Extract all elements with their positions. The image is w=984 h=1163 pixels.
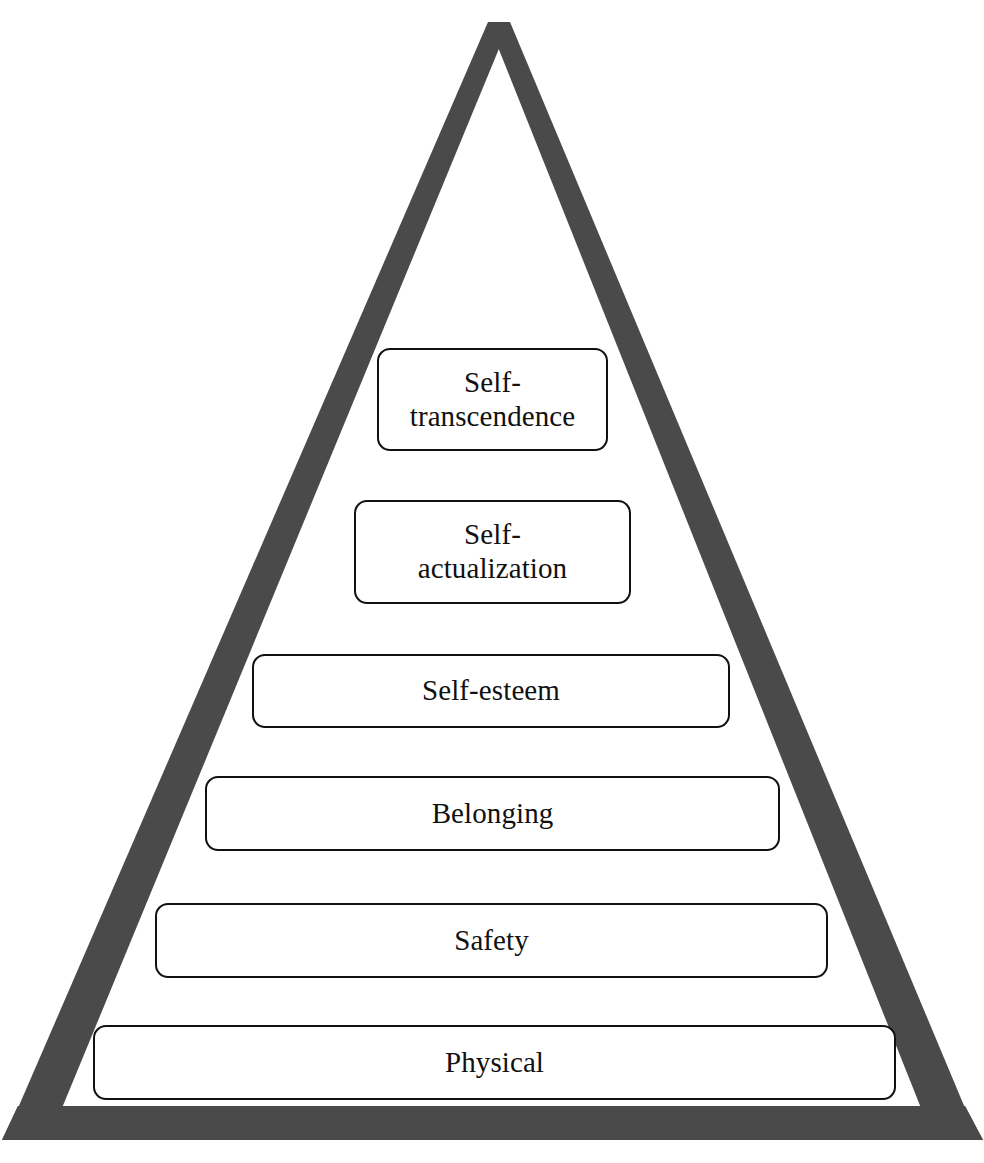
pyramid-level-label: Safety bbox=[454, 924, 529, 958]
pyramid-level-label: Self- actualization bbox=[418, 518, 567, 586]
pyramid-level-5[interactable]: Safety bbox=[155, 903, 828, 978]
pyramid-level-4[interactable]: Belonging bbox=[205, 776, 780, 851]
pyramid-level-label: Belonging bbox=[432, 797, 554, 831]
pyramid-base-bar bbox=[2, 1106, 983, 1140]
pyramid-level-6[interactable]: Physical bbox=[93, 1025, 896, 1100]
pyramid-diagram: Self- transcendenceSelf- actualizationSe… bbox=[0, 0, 984, 1163]
pyramid-level-1[interactable]: Self- transcendence bbox=[377, 348, 608, 451]
pyramid-level-3[interactable]: Self-esteem bbox=[252, 654, 730, 728]
pyramid-level-label: Self-esteem bbox=[422, 674, 560, 708]
pyramid-level-2[interactable]: Self- actualization bbox=[354, 500, 631, 604]
pyramid-level-label: Self- transcendence bbox=[410, 366, 576, 434]
pyramid-level-label: Physical bbox=[445, 1046, 544, 1080]
